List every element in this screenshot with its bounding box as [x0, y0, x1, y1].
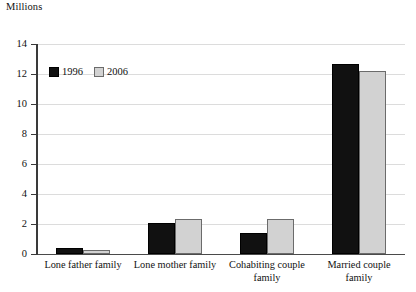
- bar-chart: Millions 02468101214 Lone father familyL…: [0, 0, 416, 292]
- y-axis-unit-label: Millions: [6, 1, 42, 13]
- y-tick-label: 8: [0, 128, 27, 139]
- bar-1996-0[interactable]: [56, 248, 83, 254]
- x-axis-category-label: Lone mother family: [129, 259, 221, 272]
- y-tick-label: 14: [0, 38, 27, 49]
- bar-1996-3[interactable]: [332, 64, 359, 255]
- y-tick-mark: [31, 254, 36, 255]
- chart-legend: 1996 2006: [49, 66, 128, 77]
- gridline: [37, 254, 405, 255]
- y-tick-group: 10: [0, 104, 37, 105]
- bar-2006-3[interactable]: [359, 71, 386, 254]
- y-tick-label: 0: [0, 248, 27, 259]
- y-tick-group: 0: [0, 254, 37, 255]
- y-tick-mark: [31, 164, 36, 165]
- y-tick-mark: [31, 194, 36, 195]
- legend-label-1996: 1996: [62, 66, 83, 77]
- bar-2006-2[interactable]: [267, 219, 294, 254]
- y-tick-label: 12: [0, 68, 27, 79]
- y-tick-label: 2: [0, 218, 27, 229]
- y-tick-group: 14: [0, 44, 37, 45]
- y-tick-group: 6: [0, 164, 37, 165]
- y-tick-mark: [31, 134, 36, 135]
- bar-1996-2[interactable]: [240, 233, 267, 254]
- legend-swatch-icon-2006: [94, 67, 104, 77]
- y-tick-group: 8: [0, 134, 37, 135]
- bar-2006-1[interactable]: [175, 219, 202, 254]
- y-tick-group: 4: [0, 194, 37, 195]
- y-tick-label: 4: [0, 188, 27, 199]
- y-tick-mark: [31, 44, 36, 45]
- y-tick-mark: [31, 224, 36, 225]
- bar-1996-1[interactable]: [148, 223, 175, 255]
- legend-entry-1996[interactable]: 1996: [49, 66, 83, 77]
- x-axis-category-label: Lone father family: [37, 259, 129, 272]
- x-axis-category-label: Cohabiting couple family: [221, 259, 313, 284]
- y-tick-label: 6: [0, 158, 27, 169]
- legend-label-2006: 2006: [107, 66, 128, 77]
- legend-entry-2006[interactable]: 2006: [94, 66, 128, 77]
- y-tick-group: 2: [0, 224, 37, 225]
- gridline: [37, 44, 405, 45]
- bar-2006-0[interactable]: [83, 250, 110, 255]
- y-tick-mark: [31, 104, 36, 105]
- y-tick-mark: [31, 74, 36, 75]
- y-tick-label: 10: [0, 98, 27, 109]
- legend-swatch-icon-1996: [49, 67, 59, 77]
- y-tick-group: 12: [0, 74, 37, 75]
- x-axis-category-label: Married couple family: [313, 259, 405, 284]
